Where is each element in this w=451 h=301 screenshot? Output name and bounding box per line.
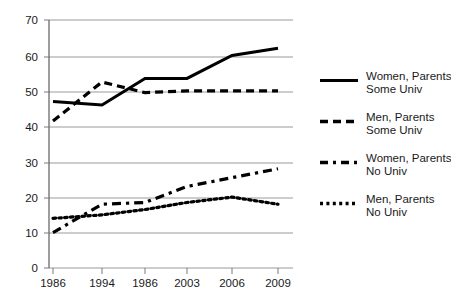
ytick-label: 30 xyxy=(4,157,38,169)
legend-swatch-dashed-icon xyxy=(320,119,358,124)
legend-label-line1: Men, Parents xyxy=(366,111,434,123)
ytick-label: 10 xyxy=(4,227,38,239)
y-axis xyxy=(44,20,49,268)
ytick-label: 50 xyxy=(4,86,38,98)
xtick-label: 2003 xyxy=(165,277,209,289)
legend-swatch-dotted-icon xyxy=(320,201,358,206)
ytick-label: 70 xyxy=(4,14,38,26)
xtick-label: 2006 xyxy=(210,277,254,289)
ytick-label: 60 xyxy=(4,51,38,63)
xtick-label: 1986 xyxy=(123,277,167,289)
legend-label-line1: Women, Parents xyxy=(366,152,451,164)
x-axis xyxy=(53,268,278,274)
xtick-label: 2009 xyxy=(256,277,300,289)
data-series-layer xyxy=(53,48,278,232)
legend-label-line2: Some Univ xyxy=(366,83,451,96)
series-line-3 xyxy=(53,169,278,233)
legend-label-line2: No Univ xyxy=(366,165,451,178)
xtick-label: 1994 xyxy=(80,277,124,289)
ytick-label: 40 xyxy=(4,121,38,133)
ytick-label: 20 xyxy=(4,192,38,204)
legend-label-line2: Some Univ xyxy=(366,124,434,137)
legend-label-line1: Women, Parents xyxy=(366,70,451,82)
legend-swatch-solid-icon xyxy=(320,78,358,83)
series-line-4 xyxy=(53,197,278,218)
legend-label-line1: Men, Parents xyxy=(366,193,434,205)
ytick-label: 0 xyxy=(4,262,38,274)
legend-swatch-dash-dot-icon xyxy=(320,160,358,165)
legend-label-line2: No Univ xyxy=(366,206,434,219)
xtick-label: 1986 xyxy=(31,277,75,289)
gridlines xyxy=(49,20,293,268)
series-line-2 xyxy=(53,82,278,121)
